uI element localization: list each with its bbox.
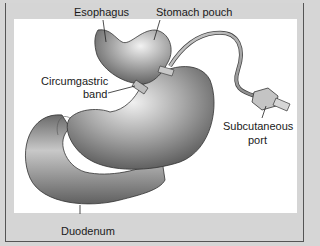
label-subcutaneous: Subcutaneous	[223, 120, 293, 132]
subcutaneous-port	[252, 88, 290, 111]
label-stomach-pouch: Stomach pouch	[156, 6, 232, 18]
label-esophagus: Esophagus	[74, 6, 129, 18]
label-port: port	[248, 134, 267, 146]
label-duodenum: Duodenum	[61, 225, 115, 237]
label-band: band	[83, 88, 107, 100]
label-circumgastric: Circumgastric	[41, 75, 108, 87]
